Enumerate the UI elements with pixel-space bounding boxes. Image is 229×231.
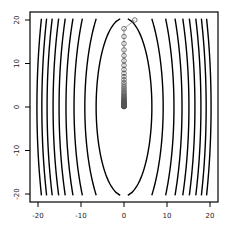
x-axis: -20-1001020 [32,202,214,220]
x-tick-label: -10 [75,212,86,220]
contour-line [74,19,82,196]
y-tick-label: -10 [13,145,21,156]
contour-line [201,19,206,196]
contour-line [37,19,41,196]
contour-line [128,19,152,196]
contour-line [166,19,174,196]
contour-line [196,19,201,196]
y-axis: -20-1001020 [13,16,30,200]
x-tick-label: 20 [206,212,215,220]
contour-line [189,19,195,196]
contour-plot: -20-1001020 -20-1001020 [0,0,229,231]
y-tick-label: 10 [13,59,21,68]
contour-line [175,19,182,196]
descent-path [122,18,137,109]
contour-line [96,19,120,196]
x-tick-label: -20 [32,212,43,220]
contour-line [47,19,52,196]
contour-line [207,19,211,196]
y-tick-label: 0 [13,105,21,109]
contour-line [85,19,96,196]
x-tick-label: 0 [122,212,126,220]
y-tick-label: 20 [13,16,21,25]
contour-line [59,19,65,196]
y-tick-label: -20 [13,188,21,199]
x-tick-label: 10 [163,212,172,220]
contour-line [183,19,189,196]
contour-line [42,19,47,196]
contour-line [152,19,163,196]
contour-line [53,19,59,196]
contour-line [66,19,73,196]
